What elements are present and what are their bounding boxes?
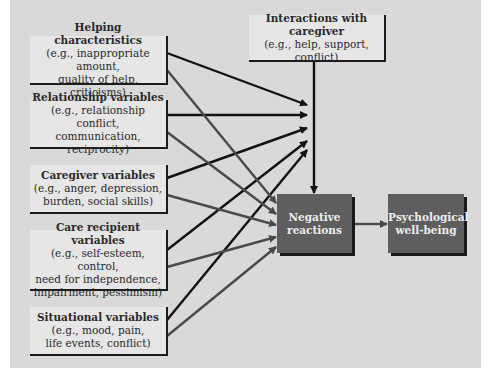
box-detail: burden, social skills) [30, 195, 166, 208]
relationship-variables-box: Relationship variables (e.g., relationsh… [30, 100, 168, 149]
box-detail: life events, conflict) [30, 337, 166, 350]
box-title: Care recipient variables [30, 221, 166, 247]
box-label: Negative [277, 211, 352, 224]
box-title: Helping characteristics [30, 21, 166, 47]
box-title: Interactions with caregiver [249, 12, 384, 38]
helping-characteristics-box: Helping characteristics (e.g., inappropr… [30, 36, 168, 85]
box-detail: (e.g., inappropriate amount, [30, 47, 166, 73]
situational-variables-box: Situational variables (e.g., mood, pain,… [30, 307, 168, 356]
box-title: Situational variables [30, 311, 166, 324]
interactions-with-caregiver-box: Interactions with caregiver (e.g., help,… [249, 15, 386, 62]
box-detail: (e.g., help, support, conflict) [249, 38, 384, 64]
box-detail: (e.g., mood, pain, [30, 324, 166, 337]
box-detail: communication, reciprocity) [30, 130, 166, 156]
box-label: well-being [388, 224, 464, 237]
caregiver-variables-box: Caregiver variables (e.g., anger, depres… [30, 165, 168, 214]
box-detail: (e.g., anger, depression, [30, 182, 166, 195]
box-detail: (e.g., relationship conflict, [30, 104, 166, 130]
box-title: Caregiver variables [30, 169, 166, 182]
box-label: Psychological [388, 211, 464, 224]
box-detail: (e.g., self-esteem, control, [30, 247, 166, 273]
box-detail: impairment, pessimism) [30, 286, 166, 299]
care-recipient-variables-box: Care recipient variables (e.g., self-est… [30, 230, 168, 291]
negative-reactions-box: Negative reactions [277, 194, 352, 253]
box-title: Relationship variables [30, 91, 166, 104]
psychological-well-being-box: Psychological well-being [388, 194, 464, 253]
box-detail: need for independence, [30, 273, 166, 286]
box-label: reactions [277, 224, 352, 237]
